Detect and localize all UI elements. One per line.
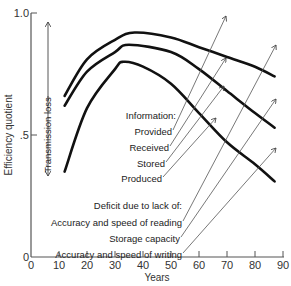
label-writing: Accuracy and speed of writing (55, 249, 182, 260)
pointer-arrow (183, 148, 276, 253)
x-tick-label: 30 (109, 259, 121, 271)
y-tick-label: 0 (23, 251, 29, 263)
deficit-labels: Deficit due to lack of: Accuracy and spe… (51, 200, 182, 260)
transmission-loss-indicator: Transmission loss (42, 22, 53, 176)
transmission-loss-label: Transmission loss (42, 97, 53, 173)
x-tick-label: 60 (193, 259, 205, 271)
label-produced: Produced (121, 173, 162, 184)
label-storage: Storage capacity (109, 233, 180, 244)
information-header: Information: (126, 110, 176, 121)
y-tick-label: .5 (20, 129, 29, 141)
x-tick-label: 70 (221, 259, 233, 271)
x-tick-label: 90 (277, 259, 289, 271)
pointer-arrow (181, 99, 276, 237)
x-tick-label: 10 (53, 259, 65, 271)
x-tick-label: 50 (165, 259, 177, 271)
label-stored: Stored (137, 158, 165, 169)
y-tick-label: 1.0 (14, 7, 29, 19)
chart-canvas: 0102030405060708090 0.51.0 Years Efficie… (0, 0, 291, 286)
deficit-header: Deficit due to lack of: (94, 200, 182, 211)
curve-3 (65, 62, 275, 182)
label-reading: Accuracy and speed of reading (51, 217, 182, 228)
label-provided: Provided (135, 126, 173, 137)
x-tick-label: 40 (137, 259, 149, 271)
pointer-arrow (183, 45, 276, 221)
x-axis-label: Years (144, 272, 169, 283)
y-axis-label: Efficiency quotient (3, 94, 14, 175)
x-tick-label: 80 (249, 259, 261, 271)
pointer-arrow (166, 86, 224, 162)
x-tick-label: 20 (81, 259, 93, 271)
label-received: Received (129, 142, 169, 153)
y-ticks: 0.51.0 (14, 7, 37, 263)
information-labels: Information: Provided Received Stored Pr… (121, 110, 176, 184)
